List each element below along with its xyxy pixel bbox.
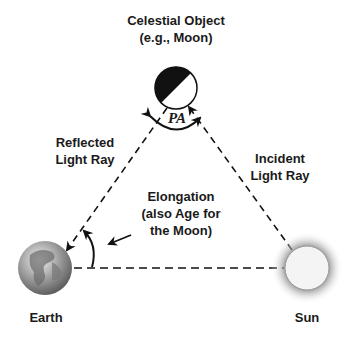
earth-icon — [18, 241, 72, 295]
celestial-object-label-line1: Celestial Object — [118, 12, 234, 29]
elongation-label-line2: (also Age for — [136, 205, 226, 222]
elongation-arc — [84, 231, 94, 267]
incident-light-ray-label: Incident Light Ray — [245, 150, 315, 184]
incident-label-line2: Light Ray — [245, 167, 315, 184]
phase-angle-label: PA — [160, 110, 194, 127]
elongation-label-line3: the Moon) — [136, 222, 226, 239]
reflected-label-line1: Reflected — [50, 134, 120, 151]
elongation-label: Elongation (also Age for the Moon) — [136, 188, 226, 239]
moon-icon — [155, 67, 197, 109]
sun-icon — [271, 232, 343, 304]
reflected-label-line2: Light Ray — [50, 151, 120, 168]
elongation-label-line1: Elongation — [136, 188, 226, 205]
sun-label: Sun — [287, 309, 327, 326]
celestial-object-label-line2: (e.g., Moon) — [118, 29, 234, 46]
celestial-object-label: Celestial Object (e.g., Moon) — [118, 12, 234, 46]
incident-label-line1: Incident — [245, 150, 315, 167]
elongation-pointer-arrow — [109, 235, 131, 244]
earth-label: Earth — [18, 309, 74, 326]
reflected-light-ray-label: Reflected Light Ray — [50, 134, 120, 168]
